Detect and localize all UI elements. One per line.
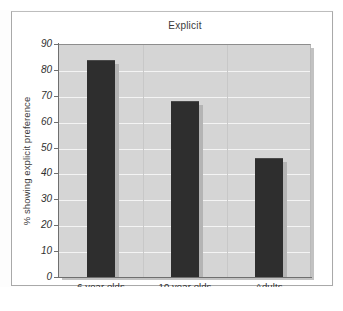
category-separator bbox=[143, 45, 144, 277]
y-tick-mark bbox=[54, 173, 59, 174]
page-margin-bottom bbox=[0, 287, 343, 311]
chart-title: Explicit bbox=[56, 20, 314, 31]
y-tick: 90 bbox=[30, 39, 52, 49]
y-tick: 0 bbox=[30, 272, 52, 282]
y-tick-mark bbox=[54, 148, 59, 149]
y-tick: 70 bbox=[30, 91, 52, 101]
y-tick-label: 10 bbox=[30, 246, 52, 256]
page-margin-top bbox=[0, 0, 343, 10]
y-tick-mark bbox=[54, 277, 59, 278]
y-tick-mark bbox=[54, 44, 59, 45]
y-tick-label: 70 bbox=[30, 91, 52, 101]
y-tick-mark bbox=[54, 122, 59, 123]
y-tick-label: 20 bbox=[30, 220, 52, 230]
y-tick-label: 50 bbox=[30, 143, 52, 153]
bar bbox=[87, 60, 115, 277]
page-margin-right bbox=[334, 0, 343, 311]
x-axis-line bbox=[58, 277, 312, 278]
y-tick-mark bbox=[54, 96, 59, 97]
y-tick-label: 80 bbox=[30, 65, 52, 75]
y-axis-title: % showing explicit preference bbox=[17, 44, 35, 278]
y-tick: 50 bbox=[30, 143, 52, 153]
figure-root: Explicit % showing explicit preference 9… bbox=[0, 0, 343, 311]
y-tick-label: 40 bbox=[30, 168, 52, 178]
y-tick: 30 bbox=[30, 194, 52, 204]
y-tick: 20 bbox=[30, 220, 52, 230]
y-tick-mark bbox=[54, 251, 59, 252]
y-tick-mark bbox=[54, 225, 59, 226]
y-tick-mark bbox=[54, 70, 59, 71]
bar bbox=[255, 158, 283, 277]
y-tick-label: 60 bbox=[30, 117, 52, 127]
category-separator bbox=[227, 45, 228, 277]
bar bbox=[171, 101, 199, 277]
y-tick: 40 bbox=[30, 168, 52, 178]
y-tick: 80 bbox=[30, 65, 52, 75]
y-tick: 60 bbox=[30, 117, 52, 127]
y-tick-label: 0 bbox=[30, 272, 52, 282]
y-tick-label: 30 bbox=[30, 194, 52, 204]
y-tick: 10 bbox=[30, 246, 52, 256]
y-tick-mark bbox=[54, 199, 59, 200]
y-tick-label: 90 bbox=[30, 39, 52, 49]
y-axis-line bbox=[58, 43, 59, 278]
